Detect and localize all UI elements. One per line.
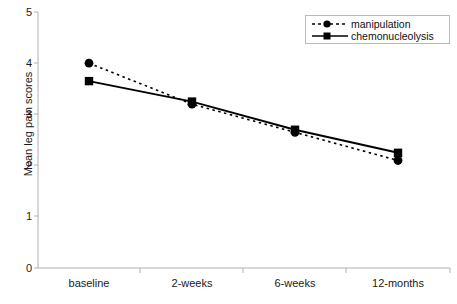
series-layer: [85, 59, 403, 165]
legend-item-manipulation: manipulation: [311, 18, 444, 30]
data-point-manipulation-12-months: [394, 156, 403, 165]
x-axis-ticks: [140, 268, 450, 273]
legend-label-manipulation: manipulation: [351, 18, 411, 30]
legend-key-chemonucleolysis-icon: [311, 30, 349, 42]
chart-container: Mean leg pain scores 0 1 2 3 4 5 baselin…: [0, 0, 457, 304]
data-point-chemonucleolysis-6-weeks: [291, 126, 299, 134]
y-axis-ticks: [34, 12, 38, 268]
legend-label-chemonucleolysis: chemonucleolysis: [351, 30, 434, 42]
legend: manipulation chemonucleolysis: [305, 15, 450, 44]
data-point-manipulation-baseline: [85, 59, 94, 68]
data-point-chemonucleolysis-12-months: [394, 149, 402, 157]
plot-area: [0, 0, 457, 304]
legend-key-manipulation-icon: [311, 18, 349, 30]
legend-item-chemonucleolysis: chemonucleolysis: [311, 30, 444, 42]
series-chemonucleolysis: [85, 77, 402, 157]
series-manipulation: [85, 59, 403, 165]
data-point-chemonucleolysis-baseline: [85, 77, 93, 85]
data-point-chemonucleolysis-2-weeks: [188, 97, 196, 105]
series-line-chemonucleolysis: [89, 81, 398, 153]
series-line-manipulation: [89, 63, 398, 160]
